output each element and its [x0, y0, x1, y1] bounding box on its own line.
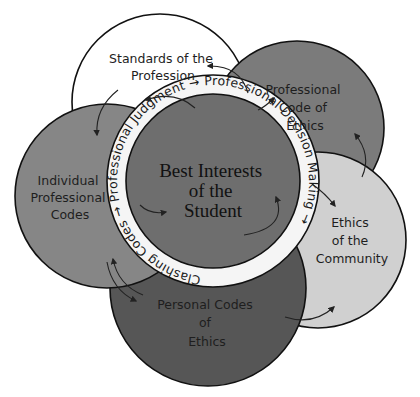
ethics-diagram: Clashing Codes → Professional Judgment →… — [0, 0, 420, 397]
